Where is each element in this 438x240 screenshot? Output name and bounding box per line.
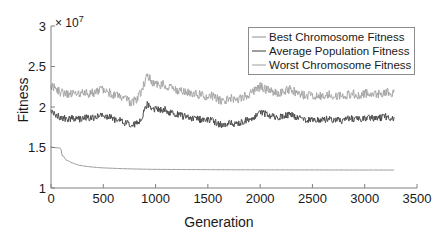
x-axis-title: Generation — [0, 214, 438, 230]
y-axis-tick-label: 1.5 — [28, 140, 46, 155]
y-axis-title-text: Fitness — [15, 77, 31, 122]
y-axis-tick-label: 3 — [39, 19, 46, 34]
x-axis-tick-label: 2500 — [298, 191, 327, 206]
y-axis-exponent-base: × 10 — [55, 16, 79, 30]
legend-label-best: Best Chromosome Fitness — [269, 31, 405, 43]
y-axis-title: Fitness — [15, 60, 31, 140]
y-axis-tick-label: 2 — [39, 100, 46, 115]
legend-item[interactable]: Average Population Fitness — [251, 44, 411, 58]
x-axis-tick-label: 2000 — [246, 191, 275, 206]
x-axis-tick-label: 3000 — [350, 191, 379, 206]
legend-line-sample-average — [251, 46, 267, 56]
chart-legend[interactable]: Best Chromosome Fitness Average Populati… — [248, 27, 415, 75]
figure-canvas: 11.522.530500100015002000250030003500 × … — [0, 0, 438, 240]
data-series-layer — [51, 74, 394, 170]
y-axis-tick-label: 1 — [39, 181, 46, 196]
legend-label-worst: Worst Chromosome Fitness — [269, 59, 411, 71]
y-axis-exponent: × 107 — [55, 14, 84, 30]
x-axis-tick-label: 0 — [47, 191, 54, 206]
legend-line-sample-best — [251, 32, 267, 42]
legend-label-average: Average Population Fitness — [269, 45, 409, 57]
y-axis-exponent-power: 7 — [79, 14, 84, 24]
data-series-line — [51, 74, 394, 107]
data-series-line — [51, 147, 394, 170]
x-axis-title-text: Generation — [184, 214, 253, 230]
x-axis-tick-label: 500 — [92, 191, 114, 206]
x-axis-tick-label: 1000 — [141, 191, 170, 206]
data-series-line — [51, 101, 394, 127]
legend-item[interactable]: Best Chromosome Fitness — [251, 30, 411, 44]
x-axis-tick-label: 1500 — [193, 191, 222, 206]
legend-line-sample-worst — [251, 60, 267, 70]
x-axis-tick-label: 3500 — [403, 191, 432, 206]
legend-item[interactable]: Worst Chromosome Fitness — [251, 58, 411, 72]
